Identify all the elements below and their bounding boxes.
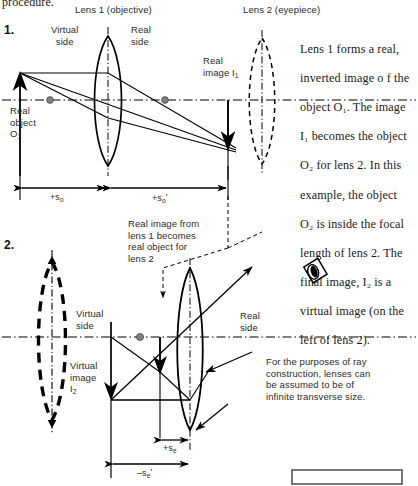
dim-label-so: +so: [50, 192, 64, 205]
ray-parallel-2: [111, 337, 160, 372]
ray-focal-1b: [108, 118, 236, 152]
paragraph-line: object O₁. The image: [300, 100, 418, 115]
focal-point-dot-2: [136, 333, 143, 340]
section-2-virtual-image-label: Virtual imageI2: [70, 360, 97, 397]
figure-page: procedure. Lens 1 (objective) Lens 2 (ey…: [0, 0, 418, 486]
explanation-paragraph: Lens 1 forms a real, inverted image o f …: [300, 27, 418, 363]
paragraph-line: length of lens 2. The: [300, 246, 418, 261]
paragraph-line: inverted image o f the: [300, 71, 418, 86]
section-1-number: 1.: [4, 25, 14, 37]
focal-point-dot-right: [162, 97, 169, 104]
paragraph-line: O₂ is inside the focal: [300, 217, 418, 232]
section-1-real-side-label: Real side: [131, 24, 151, 47]
callout-real-image-from-lens1: Real image from lens 1 becomes real obje…: [128, 218, 199, 264]
lens-2-solid: [177, 258, 203, 452]
focal-point-dot-left: [47, 97, 54, 104]
virtual-image-text: Virtual image: [70, 360, 97, 383]
callout-leader-dashed-diag: [228, 232, 262, 248]
section-2-number: 2.: [4, 240, 14, 252]
real-object-text: Real object: [10, 105, 36, 128]
dim-label-se: +se: [163, 443, 177, 456]
callout-infinite-transverse-size: For the purposes of ray construction, le…: [266, 356, 370, 402]
real-image-text: Real image I: [203, 55, 235, 78]
callout-arrow-to-lens-bottom: [196, 404, 228, 430]
paragraph-line: O₂ for lens 2. In this: [300, 158, 418, 173]
top-cut-text: procedure.: [2, 0, 54, 9]
dim-label-so-prime: +so': [152, 192, 168, 206]
callout-arrow-to-lens-top: [206, 352, 252, 372]
paragraph-line: I₁ becomes the object: [300, 129, 418, 144]
bottom-rule-box: [292, 470, 402, 484]
real-object-symbol: O1: [10, 128, 21, 139]
dim-label-se-prime: –se': [137, 467, 152, 481]
paragraph-line: Lens 1 forms a real,: [300, 42, 418, 57]
virtual-image-symbol: I2: [70, 383, 77, 394]
paragraph-line: example, the object: [300, 188, 418, 203]
lens-2-eyepiece: [249, 30, 275, 174]
lens-1-heading: Lens 1 (objective): [75, 4, 152, 16]
virtual-image-lens-outline: [39, 250, 66, 434]
paragraph-line: left of lens 2).: [300, 333, 418, 348]
section-1-virtual-side-label: Virtual side: [51, 24, 78, 47]
section-1-real-object-label: Real objectO1: [10, 105, 36, 142]
lens-2-heading: Lens 2 (eyepiece): [243, 4, 320, 16]
paragraph-line: virtual image (on the: [300, 304, 418, 319]
real-image-subscript: 1: [235, 71, 239, 78]
section-2-virtual-side-label: Virtual side: [76, 308, 103, 331]
ray-upward-2: [111, 267, 252, 400]
paragraph-line: final image, I₂ is a: [300, 275, 418, 290]
ray-slope-2: [160, 372, 190, 400]
section-1-real-image-label: Real image I1: [203, 55, 239, 81]
section-2-real-side-label: Real side: [240, 310, 260, 333]
